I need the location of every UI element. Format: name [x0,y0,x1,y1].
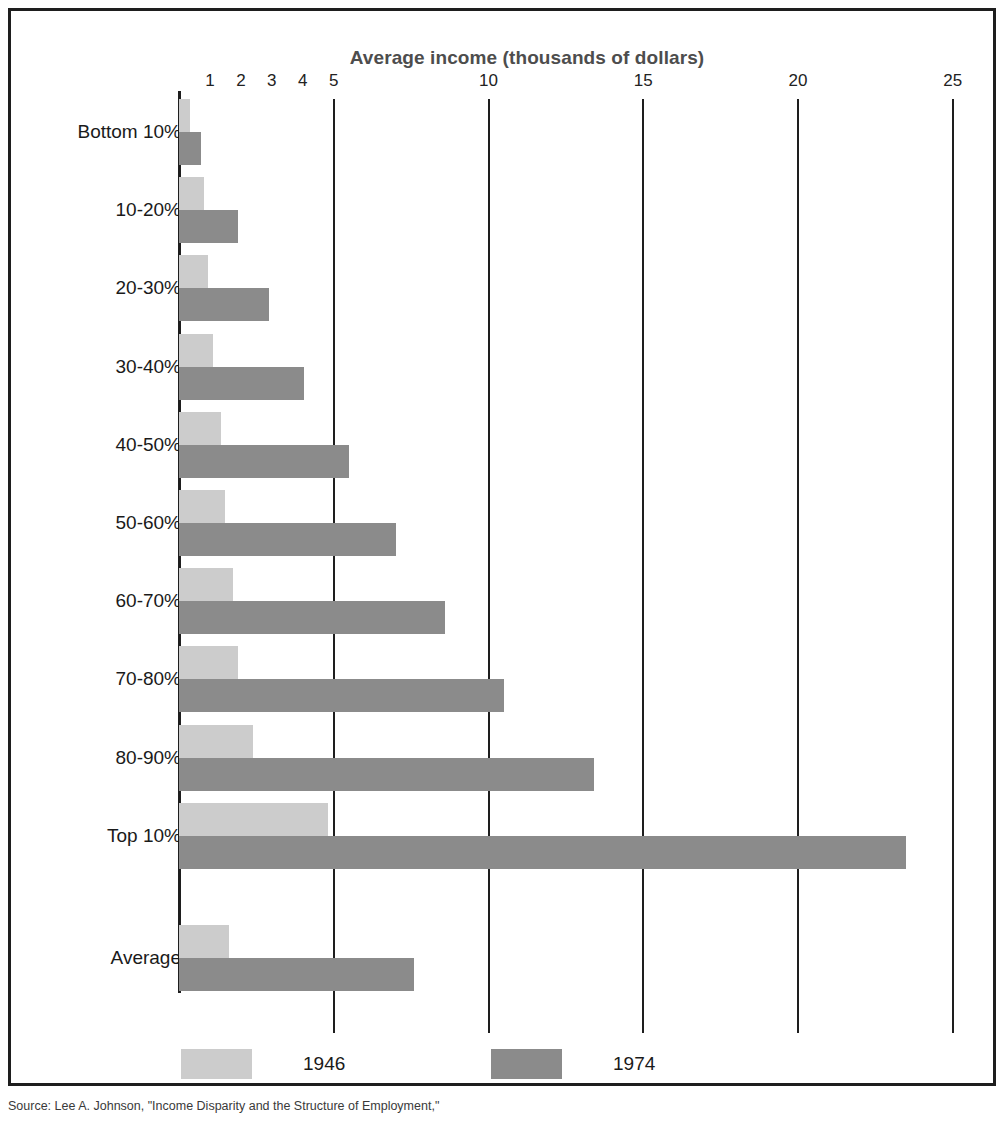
legend-item-1974[interactable]: 1974 [491,1049,655,1079]
legend-label-1974: 1974 [613,1053,655,1075]
x-tick-label-4: 4 [298,71,307,91]
bar-1946-10-20 [179,177,204,210]
bar-1946-60-70 [179,568,233,601]
bar-1946-80-90 [179,725,253,758]
bar-1946-50-60 [179,490,225,523]
bar-1974-top-10 [179,836,906,869]
bar-1974-10-20 [179,210,238,243]
category-label-average: Average [111,947,181,969]
bar-1946-bottom-10 [179,99,190,132]
legend-swatch-1974 [491,1049,562,1079]
bar-1974-20-30 [179,288,269,321]
bar-1946-average [179,925,229,958]
bar-1974-60-70 [179,601,445,634]
legend-swatch-1946 [181,1049,252,1079]
bar-1946-top-10 [179,803,328,836]
bar-1946-40-50 [179,412,221,445]
category-label-40-50: 40-50% [116,434,182,456]
bar-1974-average [179,958,414,991]
x-tick-label-2: 2 [236,71,245,91]
x-tick-label-20: 20 [789,71,808,91]
category-label-top-10: Top 10% [107,825,181,847]
x-tick-label-25: 25 [943,71,962,91]
category-label-20-30: 20-30% [116,277,182,299]
category-label-80-90: 80-90% [116,747,182,769]
x-tick-label-10: 10 [479,71,498,91]
bar-1974-30-40 [179,367,304,400]
category-label-30-40: 30-40% [116,356,182,378]
gridline-20 [797,99,799,1033]
x-tick-label-3: 3 [267,71,276,91]
category-label-70-80: 70-80% [116,668,182,690]
category-label-10-20: 10-20% [116,199,182,221]
bar-1946-20-30 [179,255,208,288]
x-tick-label-15: 15 [634,71,653,91]
x-tick-label-5: 5 [329,71,338,91]
gridline-15 [642,99,644,1033]
category-label-bottom-10: Bottom 10% [78,121,182,143]
gridline-10 [488,99,490,1033]
bar-1974-70-80 [179,679,504,712]
category-label-60-70: 60-70% [116,590,182,612]
bar-1974-50-60 [179,523,396,556]
bar-1974-40-50 [179,445,349,478]
x-tick-label-1: 1 [205,71,214,91]
category-label-50-60: 50-60% [116,512,182,534]
legend-label-1946: 1946 [303,1053,345,1075]
bar-1974-bottom-10 [179,132,201,165]
bar-1946-30-40 [179,334,213,367]
chart-frame: Average income (thousands of dollars) 12… [8,8,996,1086]
chart-legend: 19461974 [11,1033,999,1089]
legend-item-1946[interactable]: 1946 [181,1049,345,1079]
gridline-25 [952,99,954,1033]
bar-chart-plot-area: Average income (thousands of dollars) 12… [11,11,999,1089]
bar-1946-70-80 [179,646,238,679]
bar-1974-80-90 [179,758,594,791]
gridline-5 [333,99,335,1033]
chart-title: Average income (thousands of dollars) [11,47,999,69]
source-note: Source: Lee A. Johnson, "Income Disparit… [8,1093,988,1122]
